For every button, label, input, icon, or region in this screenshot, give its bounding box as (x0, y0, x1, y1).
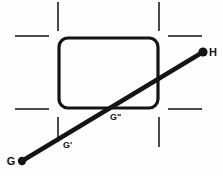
point-marker-h (198, 47, 207, 56)
point-label-h: H (209, 46, 217, 58)
point-label-g-prime: G' (63, 140, 72, 150)
point-label-g: G (7, 155, 16, 167)
point-marker-g (18, 157, 26, 165)
rounded-rectangle (59, 38, 158, 108)
point-label-g-double-prime: G" (110, 112, 121, 122)
diagram-canvas: GG'G"H (0, 0, 223, 176)
sight-line-g-to-h (22, 52, 203, 161)
diagram-shapes-group (22, 38, 203, 161)
diagram-svg: GG'G"H (0, 0, 223, 176)
registration-ticks-group (15, 2, 202, 147)
